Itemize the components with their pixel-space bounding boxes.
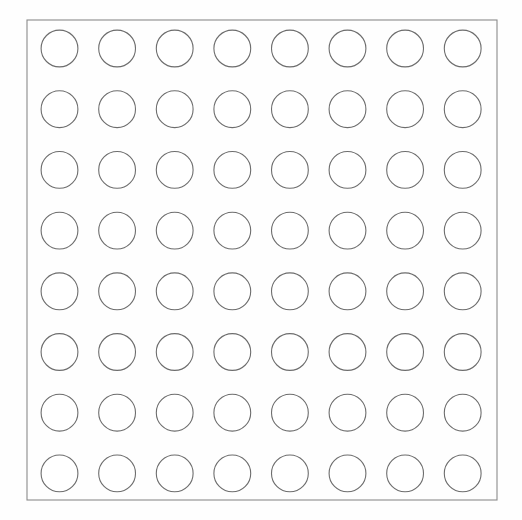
grid-circle-row-7-col-1 [41,394,78,431]
grid-circle-row-3-col-8 [444,152,481,189]
grid-circle-row-1-col-3 [156,30,193,67]
grid-circle-row-5-col-3 [156,273,193,310]
grid-circle-row-2-col-5 [272,91,309,128]
grid-circle-row-8-col-6 [329,455,366,492]
grid-circle-row-1-col-8 [444,30,481,67]
grid-circle-row-7-col-8 [444,394,481,431]
grid-circle-row-7-col-3 [156,394,193,431]
grid-circle-row-4-col-1 [41,212,78,249]
circle-grid-diagram [0,0,522,520]
grid-circle-row-6-col-5 [272,334,309,371]
grid-circle-row-3-col-7 [387,152,424,189]
grid-circle-row-4-col-8 [444,212,481,249]
grid-circle-row-5-col-4 [214,273,251,310]
grid-circle-row-4-col-4 [214,212,251,249]
grid-circle-row-7-col-5 [272,394,309,431]
grid-circle-row-6-col-1 [41,334,78,371]
grid-circle-row-3-col-5 [272,152,309,189]
grid-circle-row-8-col-5 [272,455,309,492]
grid-circle-row-3-col-1 [41,152,78,189]
grid-circle-row-6-col-7 [387,334,424,371]
grid-circle-row-3-col-3 [156,152,193,189]
grid-circle-row-6-col-6 [329,334,366,371]
grid-circle-row-5-col-7 [387,273,424,310]
grid-circle-row-4-col-3 [156,212,193,249]
grid-circle-row-8-col-7 [387,455,424,492]
grid-circle-row-3-col-2 [99,152,136,189]
grid-circle-row-2-col-3 [156,91,193,128]
grid-circle-row-1-col-4 [214,30,251,67]
grid-circle-row-8-col-2 [99,455,136,492]
grid-circle-row-1-col-2 [99,30,136,67]
grid-circle-row-2-col-7 [387,91,424,128]
grid-circle-row-5-col-6 [329,273,366,310]
panel-border [27,20,497,500]
grid-circle-row-1-col-5 [272,30,309,67]
grid-circle-row-8-col-4 [214,455,251,492]
grid-circle-row-5-col-5 [272,273,309,310]
diagram-canvas [0,0,522,520]
grid-circle-row-7-col-2 [99,394,136,431]
grid-circle-row-5-col-2 [99,273,136,310]
grid-circle-row-5-col-8 [444,273,481,310]
grid-circle-row-2-col-2 [99,91,136,128]
grid-circle-row-8-col-1 [41,455,78,492]
grid-circle-row-2-col-8 [444,91,481,128]
grid-circle-row-7-col-6 [329,394,366,431]
grid-circle-row-4-col-7 [387,212,424,249]
grid-circle-row-2-col-6 [329,91,366,128]
grid-circle-row-8-col-8 [444,455,481,492]
grid-circle-row-2-col-1 [41,91,78,128]
circle-grid-layer [41,30,481,492]
grid-circle-row-1-col-1 [41,30,78,67]
grid-circle-row-4-col-6 [329,212,366,249]
grid-circle-row-6-col-3 [156,334,193,371]
grid-circle-row-8-col-3 [156,455,193,492]
grid-circle-row-6-col-4 [214,334,251,371]
grid-circle-row-2-col-4 [214,91,251,128]
grid-circle-row-1-col-6 [329,30,366,67]
grid-circle-row-5-col-1 [41,273,78,310]
grid-circle-row-4-col-5 [272,212,309,249]
grid-circle-row-1-col-7 [387,30,424,67]
grid-circle-row-6-col-2 [99,334,136,371]
grid-circle-row-6-col-8 [444,334,481,371]
grid-circle-row-3-col-6 [329,152,366,189]
grid-circle-row-4-col-2 [99,212,136,249]
grid-circle-row-7-col-4 [214,394,251,431]
grid-circle-row-3-col-4 [214,152,251,189]
grid-circle-row-7-col-7 [387,394,424,431]
